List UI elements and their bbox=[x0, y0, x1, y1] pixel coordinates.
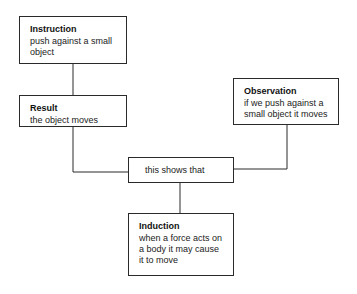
observation-title: Observation bbox=[244, 86, 330, 97]
instruction-text: push against a small object bbox=[30, 36, 118, 58]
instruction-box: Instruction push against a small object bbox=[19, 16, 127, 64]
result-title: Result bbox=[30, 103, 118, 114]
induction-box: Induction when a force acts on a body it… bbox=[128, 213, 234, 276]
observation-text: if we push against a small object it mov… bbox=[244, 98, 330, 120]
connector-observation-shows bbox=[234, 125, 287, 169]
result-box: Result the object moves bbox=[19, 95, 127, 127]
connector-result-shows bbox=[73, 127, 128, 172]
flowchart-canvas: Instruction push against a small object … bbox=[0, 0, 357, 294]
observation-box: Observation if we push against a small o… bbox=[233, 78, 339, 125]
instruction-title: Instruction bbox=[30, 24, 118, 35]
this-shows-that-text: this shows that bbox=[145, 165, 225, 176]
induction-title: Induction bbox=[139, 221, 225, 232]
induction-text: when a force acts on a body it may cause… bbox=[139, 233, 225, 266]
this-shows-that-box: this shows that bbox=[128, 157, 234, 183]
result-text: the object moves bbox=[30, 115, 118, 126]
